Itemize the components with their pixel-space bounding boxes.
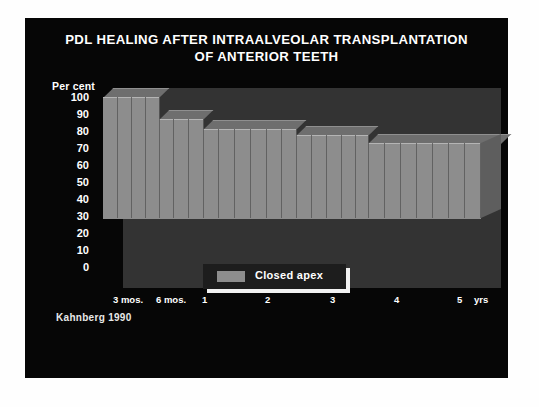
- x-tick-3: 3: [330, 294, 335, 305]
- y-tick-20: 20: [45, 227, 89, 239]
- segment-divider: [173, 119, 174, 218]
- y-tick-0: 0: [45, 261, 89, 273]
- segment-divider: [250, 129, 251, 218]
- segment-divider: [368, 135, 369, 218]
- segment-divider: [218, 129, 219, 218]
- segment-divider: [480, 143, 481, 218]
- segment-divider: [341, 135, 342, 218]
- step-face-4: [296, 135, 368, 219]
- segment-divider: [448, 143, 449, 218]
- segment-divider: [266, 129, 267, 218]
- y-tick-90: 90: [45, 108, 89, 120]
- y-tick-50: 50: [45, 176, 89, 188]
- segment-divider: [234, 129, 235, 218]
- y-tick-70: 70: [45, 142, 89, 154]
- y-tick-30: 30: [45, 210, 89, 222]
- segment-divider: [384, 143, 385, 218]
- segment-divider: [131, 97, 132, 218]
- step-face-2: [159, 119, 203, 219]
- x-tick-5: 5: [457, 294, 462, 305]
- segment-divider: [281, 129, 282, 218]
- y-tick-40: 40: [45, 193, 89, 205]
- legend-label-closed-apex: Closed apex: [255, 269, 323, 281]
- chart-legend: Closed apex: [203, 264, 346, 289]
- segment-divider: [159, 97, 160, 218]
- segment-divider: [464, 143, 465, 218]
- segment-divider: [416, 143, 417, 218]
- segment-divider: [326, 135, 327, 218]
- segment-divider: [145, 97, 146, 218]
- segment-divider: [432, 143, 433, 218]
- attribution-text: Kahnberg 1990: [56, 312, 132, 323]
- x-tick-2: 2: [265, 294, 270, 305]
- segment-divider: [203, 119, 204, 218]
- segment-divider: [400, 143, 401, 218]
- x-tick-4: 4: [394, 294, 399, 305]
- chart-plot: Per cent 100 90 80 70 60 50 40 30 20 10 …: [25, 18, 508, 378]
- stepped-area-graphic: [103, 88, 501, 288]
- segment-divider: [188, 119, 189, 218]
- y-tick-10: 10: [45, 244, 89, 256]
- y-tick-100: 100: [45, 91, 89, 103]
- segment-divider: [117, 97, 118, 218]
- chart-right-side: [481, 134, 501, 218]
- segment-divider: [311, 135, 312, 218]
- x-axis-unit-label: yrs: [474, 294, 488, 305]
- x-tick-3mos: 3 mos.: [113, 294, 143, 305]
- x-tick-6mos: 6 mos.: [156, 294, 186, 305]
- legend-swatch-closed-apex: [217, 271, 245, 282]
- x-tick-1: 1: [202, 294, 207, 305]
- y-tick-80: 80: [45, 125, 89, 137]
- y-tick-60: 60: [45, 159, 89, 171]
- segment-divider: [296, 129, 297, 218]
- slide-canvas: PDL HEALING AFTER INTRAALVEOLAR TRANSPLA…: [25, 18, 508, 378]
- segment-divider: [355, 135, 356, 218]
